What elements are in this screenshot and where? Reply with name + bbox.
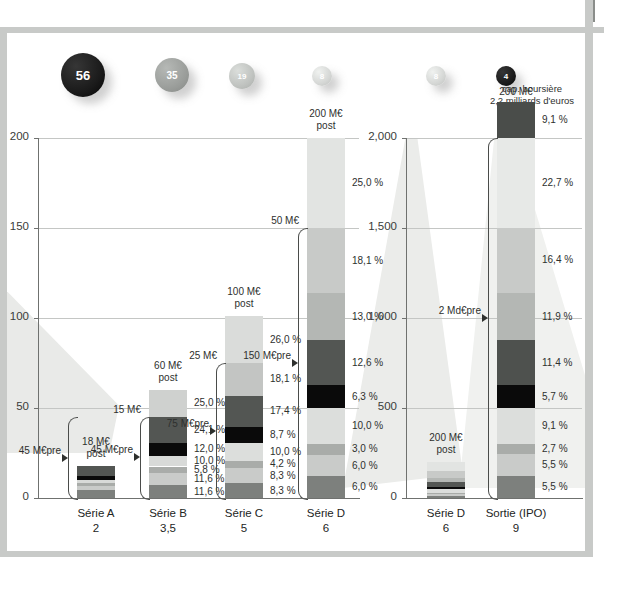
- post-money-value: 200 M€: [499, 86, 532, 97]
- y-axis-tick-label: 2,000: [349, 130, 397, 142]
- pre-money-arrow-icon: [210, 427, 216, 435]
- bar-segment[interactable]: [307, 455, 345, 477]
- bar-segment[interactable]: [307, 340, 345, 385]
- category-value: 6: [281, 521, 371, 536]
- bar-segment[interactable]: [497, 228, 535, 293]
- bar-segment[interactable]: [497, 293, 535, 340]
- bar-post-money-label: 200 M€: [475, 86, 557, 98]
- bar-segment[interactable]: [427, 471, 465, 478]
- bar-segment[interactable]: [149, 467, 187, 473]
- category-name: Sortie (IPO): [486, 507, 547, 519]
- stacked-bar[interactable]: [225, 316, 263, 498]
- bar-segment[interactable]: [497, 408, 535, 444]
- bar-segment[interactable]: [225, 363, 263, 396]
- stacked-bar[interactable]: [149, 390, 187, 498]
- pre-money-brace: [298, 228, 308, 500]
- bar-segment[interactable]: [149, 473, 187, 486]
- y-axis-tick-label: 500: [349, 400, 397, 412]
- bar-segment[interactable]: [307, 408, 345, 444]
- category-name: Série B: [149, 507, 187, 519]
- bar-segment[interactable]: [307, 138, 345, 228]
- category-name: Série C: [225, 507, 263, 519]
- bar-segment[interactable]: [427, 496, 465, 498]
- bar-segment[interactable]: [307, 228, 345, 293]
- stacked-bar[interactable]: [307, 138, 345, 498]
- bar-segment[interactable]: [307, 444, 345, 455]
- page-margin-top: [0, 0, 617, 28]
- pre-money-suffix: pre: [195, 418, 209, 429]
- round-count-bubble: 56: [61, 53, 105, 97]
- bar-segment[interactable]: [307, 293, 345, 340]
- bar-segment[interactable]: [427, 493, 465, 494]
- pre-money-suffix: pre: [47, 445, 61, 456]
- y-axis-tick-label: 1,500: [349, 220, 397, 232]
- bar-segment[interactable]: [497, 102, 535, 138]
- plot-panel-left: 05010015020018 M€post45 M€preSérie A211,…: [39, 138, 359, 498]
- pre-money-label: 150 M€pre: [229, 350, 291, 362]
- y-axis-tick-label: 0: [7, 490, 29, 502]
- bar-segment[interactable]: [427, 478, 465, 483]
- bar-segment[interactable]: [225, 396, 263, 427]
- bar-segment[interactable]: [427, 489, 465, 493]
- bar-segment[interactable]: [427, 487, 465, 489]
- bar-segment[interactable]: [149, 443, 187, 456]
- segment-percent-label: 5,5 %: [542, 459, 568, 470]
- segment-percent-label: 5,7 %: [542, 391, 568, 402]
- post-money-suffix: post: [405, 444, 487, 456]
- bar-segment[interactable]: [77, 476, 115, 480]
- category-value: 5: [199, 521, 289, 536]
- y-axis-tick-label: 1,000: [349, 310, 397, 322]
- segment-percent-label: 4,2 %: [270, 458, 296, 469]
- bar-segment[interactable]: [225, 461, 263, 469]
- pre-money-suffix: pre: [277, 350, 291, 361]
- stacked-bar[interactable]: [427, 462, 465, 498]
- segment-percent-label: 3,0 %: [352, 443, 378, 454]
- stacked-bar[interactable]: [497, 102, 535, 498]
- bar-segment[interactable]: [77, 480, 115, 483]
- bubble-label: 56: [76, 68, 90, 83]
- segment-percent-label: 8,7 %: [270, 429, 296, 440]
- page-margin-right: [604, 0, 617, 589]
- segment-percent-label: 8,3 %: [270, 470, 296, 481]
- bubble-label: 19: [238, 72, 247, 81]
- segment-percent-label: 5,5 %: [542, 481, 568, 492]
- bar-post-money-label: 200 M€post: [405, 432, 487, 456]
- bar-segment[interactable]: [497, 476, 535, 498]
- bar-segment[interactable]: [225, 483, 263, 498]
- bar-post-money-label: 200 M€post: [285, 108, 367, 132]
- bar-segment[interactable]: [427, 482, 465, 487]
- segment-percent-label: 17,4 %: [270, 405, 301, 416]
- bar-segment[interactable]: [225, 427, 263, 443]
- bar-segment[interactable]: [77, 490, 115, 498]
- bar-segment[interactable]: [307, 385, 345, 408]
- page-margin-bottom: [0, 557, 617, 589]
- pre-money-arrow-icon: [62, 454, 68, 462]
- bar-segment[interactable]: [149, 390, 187, 417]
- page-edge-left: [0, 27, 7, 557]
- segment-percent-label: 8,3 %: [270, 485, 296, 496]
- y-axis-tick-label: 100: [7, 310, 29, 322]
- bar-segment[interactable]: [149, 485, 187, 498]
- bar-segment[interactable]: [427, 462, 465, 471]
- bar-segment[interactable]: [497, 454, 535, 476]
- bar-segment[interactable]: [497, 138, 535, 228]
- pre-money-value: 150 M€: [243, 350, 276, 361]
- bar-segment[interactable]: [77, 483, 115, 486]
- bar-segment[interactable]: [77, 486, 115, 490]
- bar-post-money-label: 100 M€post: [203, 286, 285, 310]
- bar-segment[interactable]: [497, 385, 535, 408]
- bar-segment[interactable]: [149, 456, 187, 467]
- x-axis-category-label: Série D6: [281, 506, 371, 536]
- bar-segment[interactable]: [225, 443, 263, 461]
- bubble-label: 35: [166, 70, 177, 81]
- bar-segment[interactable]: [427, 494, 465, 496]
- page-edge-right: [585, 0, 593, 560]
- category-value: 9: [471, 521, 561, 536]
- bar-segment[interactable]: [307, 476, 345, 498]
- stacked-bar[interactable]: [77, 466, 115, 498]
- bar-segment[interactable]: [225, 468, 263, 483]
- x-axis-line: [38, 498, 360, 499]
- bar-segment[interactable]: [497, 340, 535, 385]
- bar-segment[interactable]: [497, 444, 535, 455]
- bar-segment[interactable]: [77, 466, 115, 476]
